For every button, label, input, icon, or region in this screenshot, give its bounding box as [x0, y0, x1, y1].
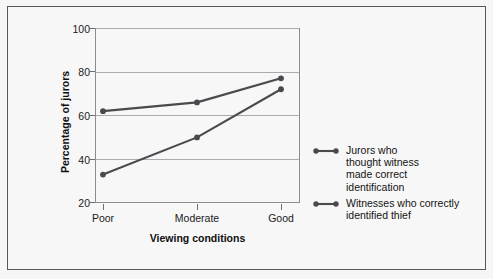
data-point	[278, 86, 284, 92]
y-tick-label-100: 100	[56, 24, 90, 35]
x-tick-label-moderate: Moderate	[175, 213, 219, 224]
y-axis-title: Percentage of jurors	[59, 47, 71, 197]
data-point	[100, 108, 106, 114]
legend-label-witnesses: Witnesses who correctly identified thief	[346, 197, 459, 221]
legend-label-jurors: Jurors who thought witness made correct …	[346, 144, 419, 193]
x-axis-tick-marks	[95, 204, 300, 211]
data-point	[278, 75, 284, 81]
chart-legend: Jurors who thought witness made correct …	[313, 144, 481, 225]
legend-line-marker-icon	[313, 198, 339, 210]
series-plot	[95, 28, 300, 203]
series-jurors-line	[103, 78, 281, 111]
x-tick-good	[281, 204, 282, 210]
x-axis-tick-labels: Poor Moderate Good	[95, 213, 300, 227]
data-point	[194, 134, 200, 140]
x-tick-label-good: Good	[268, 213, 294, 224]
x-tick-label-poor: Poor	[92, 213, 114, 224]
data-point	[194, 99, 200, 105]
y-tick-label-20: 20	[56, 198, 90, 209]
data-point	[100, 172, 106, 178]
figure: 100 80 60 40 20 Poor Moderate Good Perce…	[0, 0, 493, 279]
legend-line-marker-icon	[313, 145, 339, 157]
y-axis-tick-labels: 100 80 60 40 20	[52, 28, 90, 203]
x-tick-moderate	[197, 204, 198, 210]
legend-item-jurors: Jurors who thought witness made correct …	[313, 144, 481, 193]
x-tick-poor	[103, 204, 104, 210]
y-axis-title-holder: Percentage of jurors	[30, 38, 52, 193]
chart-plot-wrapper: 100 80 60 40 20 Poor Moderate Good Perce…	[0, 0, 493, 279]
legend-item-witnesses: Witnesses who correctly identified thief	[313, 197, 481, 221]
x-axis-title: Viewing conditions	[95, 232, 300, 244]
